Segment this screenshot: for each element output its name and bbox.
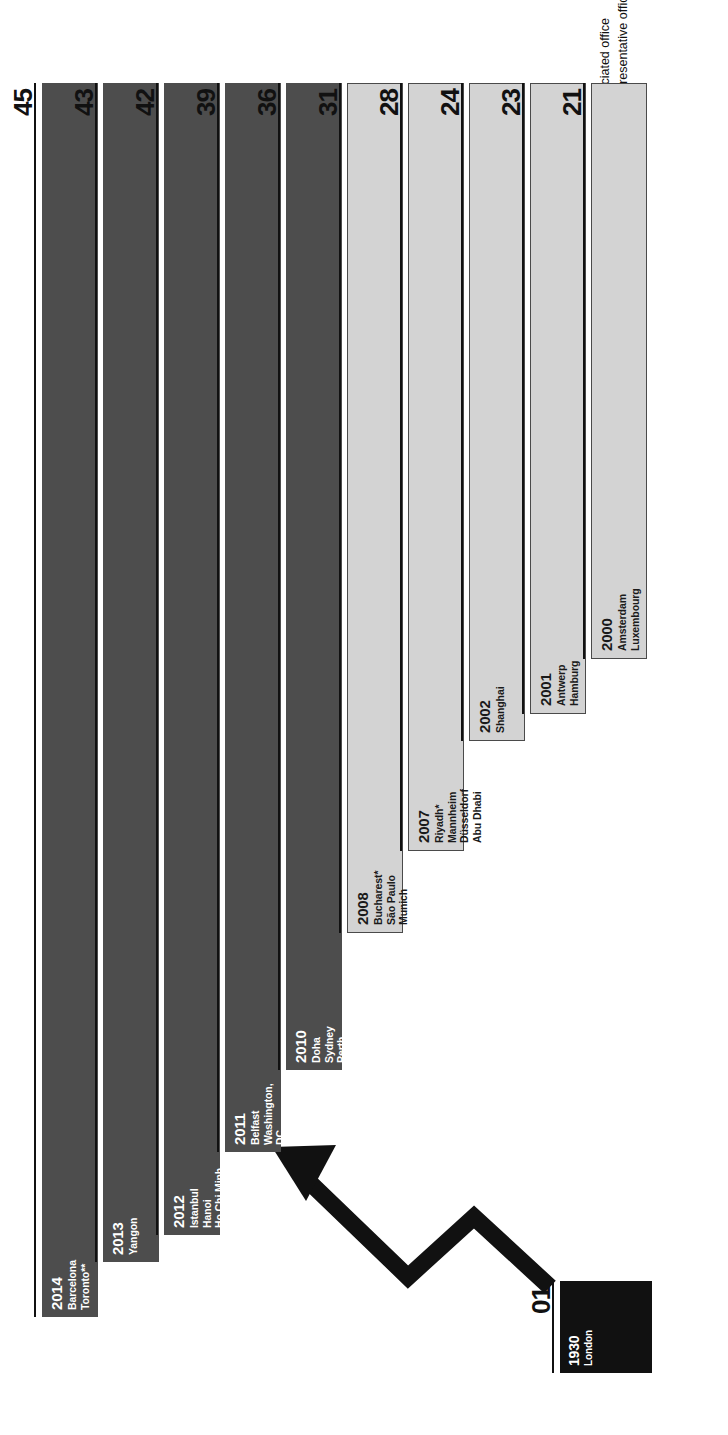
count-2008: 31 — [297, 83, 341, 933]
count-tick-rule — [461, 83, 463, 741]
bar-city-list: London — [583, 1281, 595, 1366]
count-value: 01 — [528, 1287, 554, 1314]
count-value: 21 — [559, 89, 585, 116]
bar-city: Luxembourg — [629, 84, 642, 651]
count-2013: 43 — [53, 83, 97, 1262]
count-2010: 36 — [236, 83, 280, 1070]
bar-city: Amsterdam — [616, 84, 629, 651]
count-value: 24 — [437, 89, 463, 116]
bar-1930[interactable]: 1930London — [560, 1281, 652, 1373]
count-tick-rule — [583, 83, 585, 659]
chart-figure: Network growth 1930–2014 * Associated of… — [0, 0, 728, 1435]
bar-year-label: 2000 — [599, 84, 615, 651]
count-value: 39 — [193, 89, 219, 116]
count-2011: 39 — [175, 83, 219, 1152]
count-value: 45 — [10, 89, 36, 116]
count-value: 28 — [376, 89, 402, 116]
count-value: 43 — [71, 89, 97, 116]
bar-city-list: AmsterdamLuxembourg — [616, 84, 642, 651]
bar-city: London — [583, 1281, 595, 1366]
count-value: 23 — [498, 89, 524, 116]
count-2002: 24 — [419, 83, 463, 741]
count-tick-rule — [95, 83, 97, 1262]
count-value: 36 — [254, 89, 280, 116]
count-tick-rule — [552, 1281, 554, 1373]
bar-year-label: 1930 — [567, 1281, 582, 1366]
count-value: 42 — [132, 89, 158, 116]
count-2001: 23 — [480, 83, 524, 714]
count-tick-rule — [339, 83, 341, 933]
count-2012: 42 — [114, 83, 158, 1235]
bar-2000[interactable]: 2000AmsterdamLuxembourg — [591, 83, 647, 659]
count-tick-rule — [278, 83, 280, 1070]
count-tick-rule — [34, 83, 36, 1317]
count-tick-rule — [522, 83, 524, 714]
count-2007: 28 — [358, 83, 402, 851]
count-tick-rule — [400, 83, 402, 851]
bar-chart-canvas: Network growth 1930–2014 * Associated of… — [0, 0, 728, 1435]
count-value: 31 — [315, 89, 341, 116]
count-2000: 21 — [541, 83, 585, 659]
count-tick-rule — [156, 83, 158, 1235]
count-2014: 45 — [0, 83, 36, 1317]
count-tick-rule — [217, 83, 219, 1152]
count-1930: 01 — [510, 1281, 554, 1373]
